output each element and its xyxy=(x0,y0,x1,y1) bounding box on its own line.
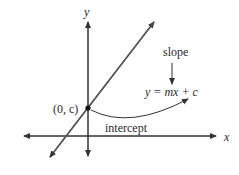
diagram-graphics xyxy=(0,0,239,175)
intercept-label: intercept xyxy=(105,122,147,134)
x-axis-label: x xyxy=(224,131,229,143)
equation-label: y = mx + c xyxy=(145,86,198,98)
y-axis-label: y xyxy=(84,6,89,18)
line-equation-diagram: y x slope y = mx + c (0, c) intercept xyxy=(0,0,239,175)
intercept-arrow xyxy=(91,99,188,118)
point-label: (0, c) xyxy=(53,103,78,115)
intercept-point xyxy=(85,105,90,110)
slope-label: slope xyxy=(163,46,188,58)
